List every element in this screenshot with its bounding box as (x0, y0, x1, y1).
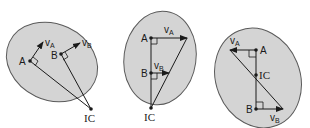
point-b (254, 107, 258, 111)
point-ic (149, 106, 153, 110)
point-a (254, 48, 258, 52)
ic-diagram: A B vA vB IC A B vA vB IC (0, 0, 310, 128)
rigid-body-1 (0, 8, 111, 117)
panel-1-nonparallel-velocities: A B vA vB IC (0, 8, 111, 124)
rigid-body-3 (200, 15, 310, 128)
label-b: B (141, 68, 148, 79)
label-vb: vB (82, 37, 92, 49)
label-b: B (246, 104, 253, 115)
label-a: A (141, 33, 148, 44)
label-ic: IC (84, 112, 95, 124)
label-b: B (51, 50, 58, 61)
label-a: A (19, 56, 26, 67)
point-ic (254, 73, 258, 77)
rigid-body-2 (118, 6, 202, 109)
panel-2-parallel-same-direction: A B vA vB IC (118, 6, 202, 123)
point-a (149, 36, 153, 40)
point-b (149, 71, 153, 75)
panel-3-parallel-opposite-direction: A B vA vB IC (200, 15, 310, 128)
label-ic: IC (259, 69, 270, 81)
point-ic (89, 107, 93, 111)
point-a (28, 59, 32, 63)
label-ic: IC (144, 111, 155, 123)
label-a: A (260, 45, 267, 56)
point-b (59, 52, 63, 56)
